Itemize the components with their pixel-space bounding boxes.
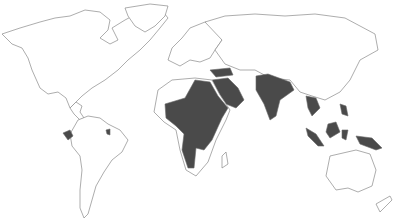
world-map <box>0 0 401 222</box>
region-philippines <box>340 104 348 116</box>
region-se-asia <box>306 96 320 116</box>
region-sulawesi <box>342 130 348 140</box>
region-borneo <box>326 122 340 138</box>
region-sumatra <box>306 128 324 146</box>
region-new-zealand <box>376 196 392 212</box>
region-south-america <box>70 116 128 218</box>
region-papua <box>356 136 382 150</box>
region-turkey <box>210 68 233 77</box>
region-india <box>256 74 294 120</box>
map-svg <box>0 0 401 222</box>
region-australia <box>326 150 376 192</box>
region-madagascar <box>222 152 228 168</box>
